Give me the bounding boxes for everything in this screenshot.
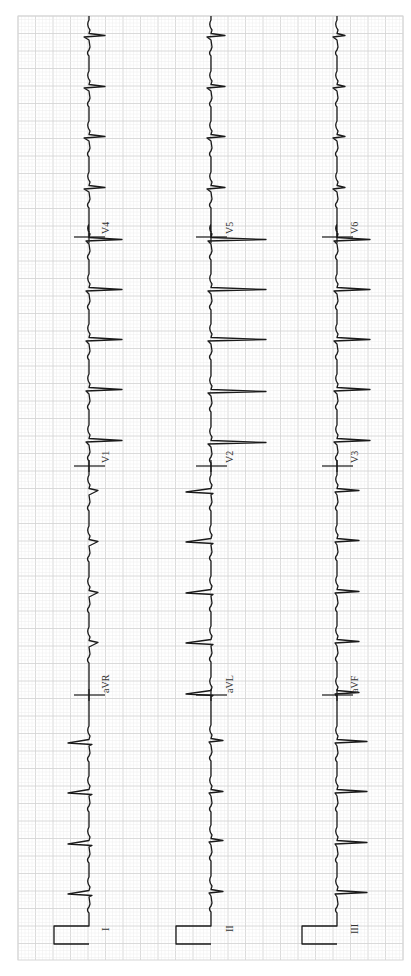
lead-label-v1: V1	[100, 451, 111, 463]
lead-label-v4: V4	[100, 222, 111, 234]
lead-label-ii: II	[224, 925, 235, 932]
lead-label-v2: V2	[224, 451, 235, 463]
lead-label-v6: V6	[349, 222, 360, 234]
lead-label-v3: V3	[349, 451, 360, 463]
lead-label-avr: aVR	[100, 675, 111, 693]
lead-label-iii: III	[349, 924, 360, 934]
lead-label-avf: aVF	[349, 676, 360, 693]
lead-label-i: I	[100, 928, 111, 931]
lead-label-avl: aVL	[224, 675, 235, 693]
ecg-chart	[0, 0, 411, 976]
lead-label-v5: V5	[224, 222, 235, 234]
